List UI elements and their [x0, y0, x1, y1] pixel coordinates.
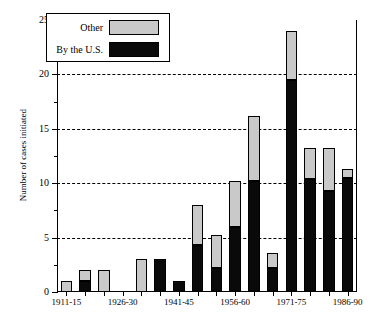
y-tick-20 [52, 74, 58, 75]
y-tick-15 [52, 129, 58, 130]
bar-segment-by-the-us-1936-40 [154, 259, 166, 292]
bar-1956-60 [229, 181, 241, 292]
bar-segment-other-1931-35 [136, 259, 148, 292]
bar-1941-45 [173, 281, 185, 292]
bar-segment-other-1921-25 [98, 270, 110, 292]
gridline-15 [57, 129, 357, 130]
y-tick-minor-7.5 [54, 210, 58, 211]
bar-segment-other-1986-90 [342, 169, 354, 178]
bar-1946-50 [192, 205, 204, 292]
y-axis-title: Number of cases initiated [18, 80, 28, 230]
bar-1911-15 [61, 281, 73, 292]
bar-segment-other-1916-20 [79, 270, 91, 281]
bar-segment-by-the-us-1961-65 [248, 181, 260, 292]
y-tick-5 [52, 238, 58, 239]
bar-1986-90 [342, 169, 354, 292]
x-tick-label-1911-15: 1911-15 [52, 298, 82, 307]
x-tick-label-1941-45: 1941-45 [164, 298, 194, 307]
x-tick-1926-30 [123, 291, 124, 296]
bar-segment-other-1971-75 [286, 31, 298, 80]
right-axis-line [356, 20, 357, 292]
y-tick-10 [52, 183, 58, 184]
bar-segment-other-1951-55 [211, 235, 223, 268]
bar-1916-20 [79, 270, 91, 292]
y-tick-0 [52, 292, 58, 293]
bar-segment-by-the-us-1966-70 [267, 268, 279, 292]
bar-segment-other-1911-15 [61, 281, 73, 292]
legend-swatch-by-the-us [109, 42, 159, 57]
legend-swatch-other [109, 20, 159, 35]
bar-segment-by-the-us-1986-90 [342, 178, 354, 292]
y-tick-minor-2.5 [54, 265, 58, 266]
legend-label-by-the-us: By the U.S. [47, 44, 109, 55]
y-tick-minor-17.5 [54, 102, 58, 103]
bar-segment-by-the-us-1951-55 [211, 268, 223, 292]
x-tick-label-1956-60: 1956-60 [220, 298, 250, 307]
y-tick-label-20: 20 [39, 69, 49, 79]
bar-1981-85 [323, 148, 335, 292]
bar-segment-other-1956-60 [229, 181, 241, 227]
legend: Other By the U.S. [46, 13, 170, 62]
bar-chart: Number of cases initiated 0510152025 191… [0, 0, 370, 330]
legend-item-other: Other [47, 17, 169, 37]
y-tick-label-10: 10 [39, 178, 49, 188]
bar-segment-other-1976-80 [304, 148, 316, 178]
bar-segment-by-the-us-1946-50 [192, 245, 204, 292]
y-tick-label-0: 0 [44, 287, 49, 297]
bar-1976-80 [304, 148, 316, 292]
bar-segment-by-the-us-1941-45 [173, 281, 185, 292]
bar-segment-other-1961-65 [248, 116, 260, 181]
bar-segment-other-1946-50 [192, 205, 204, 245]
bar-1966-70 [267, 253, 279, 292]
x-tick-label-1986-90: 1986-90 [333, 298, 363, 307]
bar-1971-75 [286, 31, 298, 292]
bar-1921-25 [98, 270, 110, 292]
x-tick-label-1926-30: 1926-30 [108, 298, 138, 307]
gridline-20 [57, 74, 357, 75]
bar-1961-65 [248, 116, 260, 292]
bar-1931-35 [136, 259, 148, 292]
y-tick-label-15: 15 [39, 124, 49, 134]
legend-label-other: Other [47, 22, 109, 33]
bar-segment-by-the-us-1916-20 [79, 281, 91, 292]
bar-1936-40 [154, 259, 166, 292]
y-tick-label-5: 5 [44, 233, 49, 243]
bar-segment-other-1966-70 [267, 253, 279, 268]
x-tick-label-1971-75: 1971-75 [276, 298, 306, 307]
bar-segment-other-1981-85 [323, 148, 335, 190]
legend-item-by-the-us: By the U.S. [47, 39, 169, 59]
bar-segment-by-the-us-1956-60 [229, 227, 241, 292]
bar-segment-by-the-us-1981-85 [323, 191, 335, 292]
bar-segment-by-the-us-1971-75 [286, 80, 298, 292]
bar-1951-55 [211, 235, 223, 292]
bar-segment-by-the-us-1976-80 [304, 179, 316, 292]
y-tick-minor-12.5 [54, 156, 58, 157]
